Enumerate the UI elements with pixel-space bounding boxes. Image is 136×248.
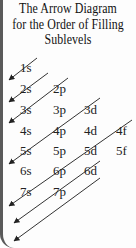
sublevel-label: 4s [20,123,32,138]
sublevel-label: 7s [20,184,32,199]
sublevel-label: 4d [84,123,98,138]
sublevel-label: 6s [20,163,32,178]
sublevel-label: 2s [20,81,32,96]
sublevel-label: 4p [53,123,66,138]
sublevel-label: 4f [116,123,128,138]
sublevel-label: 5d [84,143,98,158]
arrow-diagram: 1s2s2p3s3p3d4s4p4d4f5s5p5d5f6s6p6d7s7p [0,0,136,248]
sublevel-label: 3p [53,102,66,117]
sublevel-label: 3s [20,102,32,117]
sublevel-label: 5s [20,143,32,158]
sublevel-label: 6p [53,163,66,178]
sublevel-label: 5p [53,143,66,158]
sublevel-label: 7p [53,184,66,199]
sublevel-labels: 1s2s2p3s3p3d4s4p4d4f5s5p5d5f6s6p6d7s7p [20,60,128,199]
sublevel-label: 5f [116,143,128,158]
sublevel-label: 6d [84,163,98,178]
sublevel-label: 1s [20,60,32,75]
sublevel-label: 2p [53,81,66,96]
sublevel-label: 3d [84,102,98,117]
